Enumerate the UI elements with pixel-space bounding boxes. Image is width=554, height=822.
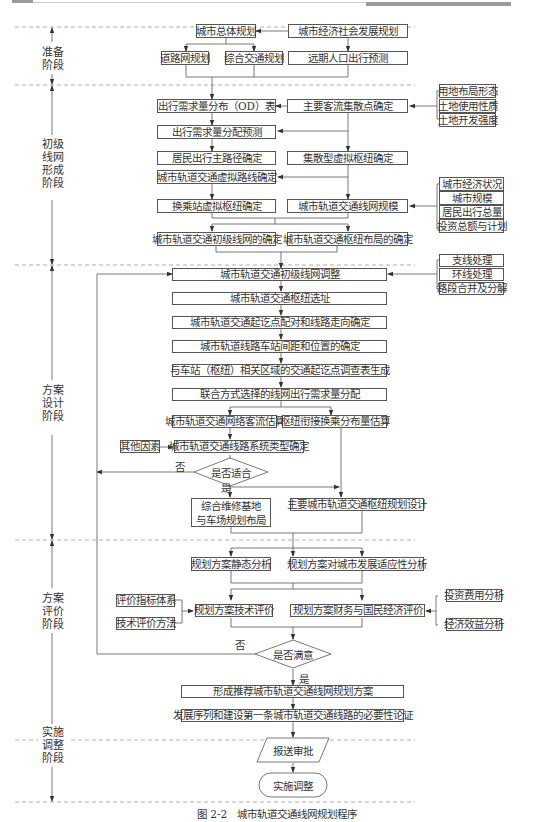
scale-input-travel-box: 居民出行总量 xyxy=(439,205,504,219)
adjust-input-merge-box: 路段合并及分解 xyxy=(439,282,504,295)
population-travel-forecast-box: 远期人口出行预测 xyxy=(288,51,408,65)
od-pairing-box: 城市轨道交通起讫点配对和线路走向确定 xyxy=(172,316,387,329)
hub-layout-box: 城市轨道交通枢纽布局的确定 xyxy=(287,232,408,246)
network-adjust-box: 城市轨道交通初级线网调整 xyxy=(172,268,387,281)
demand-assignment-box: 出行需求量分配预测 xyxy=(157,125,276,139)
adaptability-box: 规划方案对城市发展适应性分析 xyxy=(290,557,424,571)
initial-network-box: 城市轨道交通初级线网的确定 xyxy=(157,232,276,246)
depot-layout-line-2: 与车场规划布局 xyxy=(196,513,266,527)
road-network-plan-box: 道路网规划 xyxy=(161,51,209,65)
tech-eval-box: 规划方案技术评价 xyxy=(195,604,273,617)
indicator-system-box: 评价指标体系 xyxy=(116,594,175,607)
decision-suitable: 是否适合 xyxy=(194,465,268,479)
depot-layout-line-1: 综合维修基地 xyxy=(201,499,261,513)
city-master-plan-box: 城市总体规划 xyxy=(196,24,256,38)
land-input-use-box: 土地使用性质 xyxy=(439,99,496,113)
stage-design-label: 方案设计阶段 xyxy=(38,382,68,425)
od-table-box: 出行需求量分布（OD）表 xyxy=(157,99,276,113)
invest-cost-box: 投资费用分析 xyxy=(446,589,502,602)
station-spacing-box: 城市轨道线路车站间距和位置的确定 xyxy=(172,340,387,353)
decision-satisfied: 是否满意 xyxy=(255,647,331,661)
virtual-routes-box: 城市轨道交通虚拟路线确定 xyxy=(157,170,276,184)
satisfied-yes-label: 是 xyxy=(299,671,309,686)
implement-terminator: 实施调整 xyxy=(259,778,327,792)
sequence-box: 发展序列和建设第一条城市轨道交通线路的必要性论证 xyxy=(181,709,404,722)
suitable-yes-label: 是 xyxy=(221,480,231,495)
scale-input-economy-box: 城市经济状况 xyxy=(439,177,504,191)
hub-transfer-box: 枢纽衔接换乘分布量估算 xyxy=(282,415,387,428)
transfer-virtual-hub-box: 换乘站虚拟枢纽确定 xyxy=(157,199,276,213)
system-type-box: 城市轨道交通线路系统类型确定 xyxy=(174,440,304,453)
main-hub-design-box: 主要城市轨道交通枢纽规划设计 xyxy=(290,498,424,511)
scale-input-city-box: 城市规模 xyxy=(439,191,504,205)
other-factors-box: 其他因素 xyxy=(120,440,160,453)
satisfied-no-label: 否 xyxy=(235,637,245,652)
stage-impl-label: 实施调整阶段 xyxy=(38,724,68,767)
fin-eval-box: 规划方案财务与国民经济评价 xyxy=(290,604,425,617)
hub-site-box: 城市轨道交通枢纽选址 xyxy=(172,292,387,305)
tech-method-box: 技术评价方法 xyxy=(116,617,175,630)
land-input-intensity-box: 土地开发强度 xyxy=(439,113,496,127)
network-flow-box: 城市轨道交通网络客流估算 xyxy=(172,415,277,428)
land-input-layout-box: 用地布局形态 xyxy=(439,84,496,98)
econ-benefit-box: 经济效益分析 xyxy=(446,618,502,631)
integrated-transport-plan-box: 综合交通规划 xyxy=(225,51,283,65)
joint-mode-assign-box: 联合方式选择的线网出行需求量分配 xyxy=(172,388,387,401)
recommended-plan-box: 形成推荐城市轨道交通线网规划方案 xyxy=(181,685,404,698)
stage-eval-label: 方案评价阶段 xyxy=(38,590,68,633)
scale-input-invest-box: 投资总额与计划 xyxy=(439,219,504,233)
virtual-hub-collect-box: 集散型虚拟枢纽确定 xyxy=(287,151,408,165)
adjust-input-branch-box: 支线处理 xyxy=(439,254,504,267)
submit-approval: 报送审批 xyxy=(262,743,324,757)
main-passenger-points-box: 主要客流集散点确定 xyxy=(287,99,408,113)
static-analysis-box: 规划方案静态分析 xyxy=(191,557,271,571)
figure-caption: 图 2-2 城市轨道交通线网规划程序 xyxy=(0,806,554,821)
resident-main-paths-box: 居民出行主路径确定 xyxy=(157,151,276,165)
depot-layout-box: 综合维修基地 与车场规划布局 xyxy=(191,498,271,527)
stage-initial-label: 初级线网形成阶段 xyxy=(38,136,68,192)
od-survey-box: 与车站（枢纽）相关区域的交通起讫点调查表生成 xyxy=(172,364,387,377)
econ-social-plan-box: 城市经济社会发展规划 xyxy=(288,24,408,38)
suitable-no-label: 否 xyxy=(175,459,185,474)
stage-prep-label: 准备阶段 xyxy=(38,44,68,74)
network-scale-box: 城市轨道交通线网规模 xyxy=(287,199,408,213)
adjust-input-loop-box: 环线处理 xyxy=(439,268,504,281)
